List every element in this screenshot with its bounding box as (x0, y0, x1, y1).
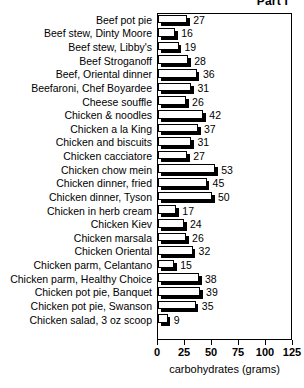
bar-row: Chicken & noodles42 (0, 108, 304, 122)
category-label: Beef Stroganoff (79, 55, 152, 66)
x-axis-tick (211, 340, 212, 345)
bar-value-label: 38 (205, 273, 217, 284)
bar-body (158, 287, 200, 296)
x-axis-tick (292, 340, 293, 345)
category-label: Chicken in herb cream (47, 205, 152, 216)
bar-body (158, 260, 174, 269)
bar-value-label: 27 (193, 151, 205, 162)
bar-body (158, 192, 212, 201)
category-label: Chicken cacciatore (63, 151, 152, 162)
bar-body (158, 55, 188, 64)
x-axis-tick-label: 50 (205, 346, 217, 358)
bar (158, 178, 207, 189)
bar-row: Chicken dinner, fried45 (0, 177, 304, 191)
bar-row: Chicken cacciatore27 (0, 149, 304, 163)
bar-value-label: 27 (193, 14, 205, 25)
bar-row: Chicken Kiev24 (0, 217, 304, 231)
bar-body (158, 151, 187, 160)
bar-value-label: 26 (192, 96, 204, 107)
bar-row: Chicken pot pie, Swanson35 (0, 299, 304, 313)
category-label: Chicken dinner, fried (56, 178, 152, 189)
bar-body (158, 273, 199, 282)
category-label: Chicken marsala (74, 232, 152, 243)
category-label: Chicken salad, 3 oz scoop (29, 314, 152, 325)
x-axis-tick-label: 25 (178, 346, 190, 358)
bar-body (158, 164, 215, 173)
bar (158, 151, 187, 162)
category-label: Chicken parm, Celantano (34, 260, 152, 271)
category-label: Beef, Oriental dinner (56, 69, 152, 80)
bar (158, 124, 198, 135)
bar-value-label: 42 (209, 110, 221, 121)
category-label: Beef pot pie (96, 14, 152, 25)
bar-body (158, 233, 186, 242)
bar-body (158, 205, 176, 214)
bar (158, 301, 196, 312)
bar-body (158, 219, 184, 228)
bar (158, 55, 188, 66)
bar-row: Chicken parm, Healthy Choice38 (0, 272, 304, 286)
bar-value-label: 28 (194, 55, 206, 66)
bar-row: Chicken and biscuits31 (0, 136, 304, 150)
x-axis-tick-label: 0 (154, 346, 160, 358)
category-label: Chicken dinner, Tyson (49, 191, 152, 202)
bar-row: Beefaroni, Chef Boyardee31 (0, 81, 304, 95)
bar (158, 287, 200, 298)
bar-row: Beef pot pie27 (0, 13, 304, 27)
category-label: Cheese souffle (82, 96, 152, 107)
category-label: Beef stew, Libby's (68, 42, 152, 53)
category-label: Beef stew, Dinty Moore (44, 28, 152, 39)
bar (158, 273, 199, 284)
bar-value-label: 37 (204, 123, 216, 134)
category-label: Beefaroni, Chef Boyardee (31, 82, 152, 93)
bar-body (158, 28, 175, 37)
category-label: Chicken and biscuits (56, 137, 152, 148)
category-label: Chicken parm, Healthy Choice (10, 273, 152, 284)
category-label: Chicken a la King (70, 123, 152, 134)
bar-value-label: 24 (190, 219, 202, 230)
chart-figure: Part I Beef pot pie27Beef stew, Dinty Mo… (0, 0, 304, 388)
chart-title: Part I (0, 0, 288, 7)
bar (158, 246, 193, 257)
bar-value-label: 26 (192, 232, 204, 243)
bar-row: Beef Stroganoff28 (0, 54, 304, 68)
bar-row: Chicken a la King37 (0, 122, 304, 136)
bar-row: Chicken in herb cream17 (0, 204, 304, 218)
x-axis-tick (157, 340, 158, 345)
x-axis-tick-label: 100 (256, 346, 274, 358)
bar-body (158, 110, 203, 119)
bar-row: Chicken chow mein53 (0, 163, 304, 177)
x-axis-tick (265, 340, 266, 345)
bar-body (158, 314, 168, 323)
category-label: Chicken Oriental (74, 246, 152, 257)
category-label: Chicken Kiev (91, 219, 152, 230)
bar (158, 314, 168, 325)
bar (158, 219, 184, 230)
category-label: Chicken pot pie, Banquet (35, 287, 152, 298)
category-label: Chicken pot pie, Swanson (31, 300, 152, 311)
bar (158, 205, 176, 216)
bar-value-label: 45 (213, 178, 225, 189)
x-axis-tick-label: 125 (283, 346, 301, 358)
bar-body (158, 124, 198, 133)
bar-value-label: 17 (182, 205, 194, 216)
x-axis-tick-label: 75 (232, 346, 244, 358)
bar (158, 42, 179, 53)
bar (158, 260, 174, 271)
bar-value-label: 36 (203, 69, 215, 80)
bar-row: Beef, Oriental dinner36 (0, 68, 304, 82)
bar (158, 137, 191, 148)
bar-value-label: 15 (180, 260, 192, 271)
bar-value-label: 53 (221, 164, 233, 175)
bar (158, 192, 212, 203)
bar (158, 233, 186, 244)
bar-value-label: 31 (197, 137, 209, 148)
bar (158, 83, 191, 94)
bar-body (158, 15, 187, 24)
bar-row: Chicken marsala26 (0, 231, 304, 245)
category-label: Chicken & noodles (64, 110, 152, 121)
bar-row: Beef stew, Dinty Moore16 (0, 27, 304, 41)
bar-value-label: 16 (181, 28, 193, 39)
bar (158, 15, 187, 26)
bar-body (158, 178, 207, 187)
